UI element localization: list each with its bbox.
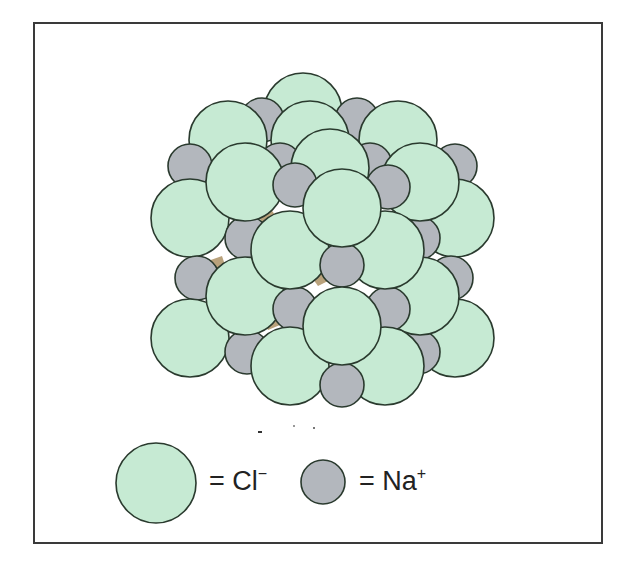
sodium-ion (320, 243, 364, 287)
legend-chloride-swatch (116, 443, 196, 523)
legend-sodium-label: = Na+ (359, 468, 426, 495)
legend-chloride-label: = Cl− (209, 468, 267, 495)
chloride-ion (303, 169, 381, 247)
print-specks (258, 425, 315, 433)
legend-sodium-swatch (301, 460, 345, 504)
nacl-lattice-diagram: .cl { fill: #c6ead3; stroke: #2a3a2e; st… (0, 0, 630, 569)
chloride-ion (303, 287, 381, 365)
chloride-ion (206, 143, 284, 221)
sodium-ion (320, 363, 364, 407)
